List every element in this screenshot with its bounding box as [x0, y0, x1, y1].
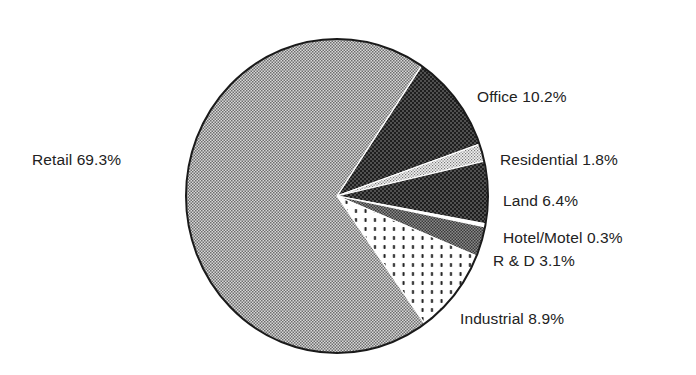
pie-slices: [186, 39, 488, 353]
label-land: Land 6.4%: [503, 192, 578, 210]
label-hotel-motel: Hotel/Motel 0.3%: [503, 229, 623, 247]
label-residential: Residential 1.8%: [500, 151, 618, 169]
label-office: Office 10.2%: [477, 88, 567, 106]
pie-chart: [0, 0, 696, 375]
label-r-and-d: R & D 3.1%: [493, 252, 575, 270]
label-industrial: Industrial 8.9%: [460, 310, 564, 328]
label-retail: Retail 69.3%: [32, 151, 121, 169]
